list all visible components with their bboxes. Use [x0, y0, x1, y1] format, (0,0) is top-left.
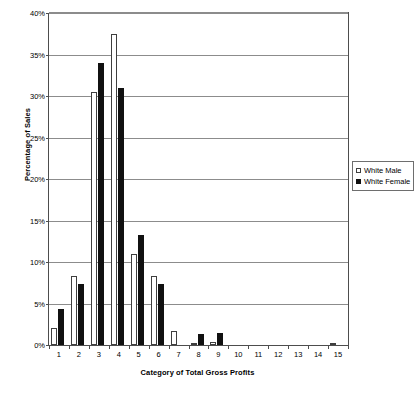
bar-group	[109, 13, 129, 345]
x-tick-label: 5	[137, 350, 141, 359]
x-tick-label: 8	[196, 350, 200, 359]
bar-white-female	[98, 63, 104, 345]
bars-layer	[49, 13, 348, 345]
legend-swatch-white-male-icon	[356, 168, 361, 173]
legend-item: White Female	[355, 176, 410, 187]
plot-right-border	[348, 12, 349, 345]
x-tick-mark	[348, 345, 349, 349]
x-tick-label: 12	[274, 350, 282, 359]
x-tick-label: 2	[77, 350, 81, 359]
x-tick-mark	[228, 345, 229, 349]
y-tick-label: 15%	[30, 216, 45, 225]
x-tick-label: 3	[97, 350, 101, 359]
x-tick-label: 6	[157, 350, 161, 359]
x-tick-label: 13	[294, 350, 302, 359]
x-tick-mark	[129, 345, 130, 349]
bar-group	[228, 13, 248, 345]
x-tick-label: 10	[234, 350, 242, 359]
x-tick-label: 1	[57, 350, 61, 359]
y-tick-label: 5%	[34, 299, 45, 308]
x-tick-label: 9	[216, 350, 220, 359]
bar-white-female	[158, 284, 164, 345]
x-tick-mark	[169, 345, 170, 349]
legend-label: White Male	[364, 166, 402, 175]
x-tick-mark	[208, 345, 209, 349]
bar-group	[208, 13, 228, 345]
bar-white-female	[78, 284, 84, 345]
x-tick-label: 11	[254, 350, 262, 359]
bar-white-female	[58, 309, 64, 345]
x-axis-title: Category of Total Gross Profits	[48, 368, 347, 377]
x-tick-mark	[288, 345, 289, 349]
bar-white-male	[71, 276, 77, 345]
bar-group	[129, 13, 149, 345]
bar-white-female	[198, 334, 204, 345]
bar-group	[69, 13, 89, 345]
bar-group	[89, 13, 109, 345]
bar-white-male	[171, 331, 177, 345]
bar-white-male	[111, 34, 117, 345]
x-tick-label: 4	[117, 350, 121, 359]
legend-swatch-white-female-icon	[356, 179, 361, 184]
x-tick-mark	[248, 345, 249, 349]
bar-white-male	[131, 254, 137, 345]
x-tick-mark	[189, 345, 190, 349]
bar-white-female	[217, 333, 223, 345]
x-tick-label: 7	[176, 350, 180, 359]
y-tick-label: 35%	[30, 50, 45, 59]
y-tick-label: 0%	[34, 341, 45, 350]
x-tick-mark	[308, 345, 309, 349]
x-tick-mark	[268, 345, 269, 349]
bar-group	[169, 13, 189, 345]
y-tick-label: 25%	[30, 133, 45, 142]
x-tick-mark	[89, 345, 90, 349]
bar-group	[189, 13, 209, 345]
bar-white-female	[118, 88, 124, 345]
bar-white-female	[138, 235, 144, 345]
x-tick-mark	[149, 345, 150, 349]
bar-group	[149, 13, 169, 345]
bar-white-male	[51, 328, 57, 345]
y-tick-label: 40%	[30, 9, 45, 18]
bar-group	[308, 13, 328, 345]
bar-white-male	[210, 342, 216, 345]
x-tick-mark	[109, 345, 110, 349]
chart-legend: White MaleWhite Female	[352, 161, 414, 191]
y-tick-label: 30%	[30, 92, 45, 101]
y-tick-label: 10%	[30, 258, 45, 267]
bar-group	[288, 13, 308, 345]
bar-group	[248, 13, 268, 345]
x-tick-mark	[328, 345, 329, 349]
plot-area: 0%5%10%15%20%25%30%35%40% 12345678910111…	[48, 13, 348, 346]
bar-white-male	[151, 276, 157, 345]
legend-label: White Female	[364, 177, 410, 186]
bar-white-male	[91, 92, 97, 345]
bar-chart-figure: Percentage of Sales 0%5%10%15%20%25%30%3…	[0, 0, 419, 396]
x-tick-mark	[69, 345, 70, 349]
bar-group	[268, 13, 288, 345]
y-tick-label: 20%	[30, 175, 45, 184]
bar-group	[328, 13, 348, 345]
x-tick-label: 14	[314, 350, 322, 359]
legend-item: White Male	[355, 165, 410, 176]
bar-white-male	[191, 343, 197, 345]
x-tick-mark	[49, 345, 50, 349]
bar-white-male	[330, 343, 336, 345]
bar-group	[49, 13, 69, 345]
x-tick-label: 15	[334, 350, 342, 359]
